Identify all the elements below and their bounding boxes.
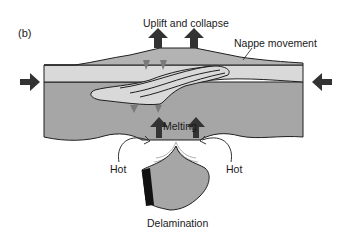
diagram-graphic	[0, 0, 340, 236]
orogen-wedge	[44, 48, 303, 65]
delamination-label: Delamination	[147, 218, 208, 229]
uplift-label: Uplift and collapse	[143, 18, 229, 29]
hot-arrow-left	[118, 138, 148, 162]
panel-label: (b)	[18, 28, 31, 39]
uplift-arrow-right	[184, 28, 204, 48]
nappe-label: Nappe movement	[234, 38, 317, 49]
hot-arrow-right	[202, 138, 232, 162]
delamination-diagram: (b) Uplift and collapse Nappe movement M…	[0, 0, 340, 236]
compression-arrow-left	[20, 73, 40, 91]
compression-arrow-right	[312, 73, 332, 91]
uplift-arrow-left	[148, 28, 168, 48]
hot-right-label: Hot	[226, 164, 242, 175]
hot-left-label: Hot	[110, 164, 126, 175]
melting-label: Melting	[163, 121, 197, 132]
